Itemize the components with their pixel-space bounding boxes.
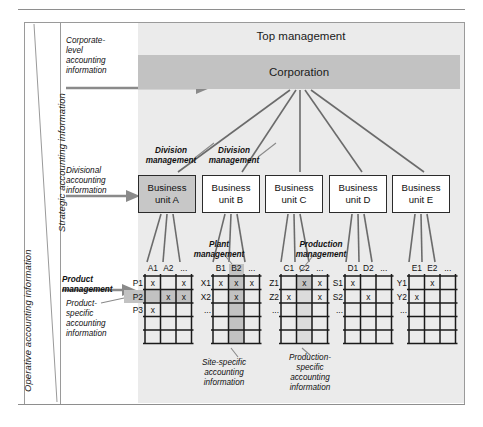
business-unit-label-line1: Business (275, 182, 314, 194)
label-division-management-2: Division management (203, 146, 265, 165)
matrix-cell-mark: x (161, 292, 175, 302)
business-unit-label-line2: unit E (409, 194, 434, 206)
note-product-specific-line4: information (66, 329, 107, 339)
label-division-management-1-line1: Division (140, 146, 202, 156)
label-production-management-line2: management (285, 250, 357, 260)
matrix-cell-mark: x (214, 278, 228, 288)
note-production-specific-line2: specific (272, 363, 348, 373)
matrix-column-header: B2 (229, 263, 245, 273)
note-production-specific: Production- specific accounting informat… (272, 353, 348, 392)
corporation-label: Corporation (269, 66, 329, 78)
matrix-row-label: Y2 (384, 292, 407, 302)
label-production-management: Production management (285, 240, 357, 259)
top-divider-rule (18, 9, 465, 10)
matrix-row-label: ... (384, 305, 407, 315)
matrix-row-label: X1 (186, 278, 211, 288)
business-unit-box-c[interactable]: Businessunit C (265, 175, 323, 213)
matrix-column-header: ... (244, 263, 260, 273)
matrix-cell-mark: x (346, 278, 360, 288)
matrix-column-header: ... (440, 263, 456, 273)
label-division-management-2-line2: management (203, 156, 265, 166)
matrix-highlight-column (229, 264, 245, 344)
label-division-management-2-line1: Division (203, 146, 265, 156)
matrix-row-label: Z1 (254, 278, 279, 288)
business-unit-label-line2: unit C (281, 194, 306, 206)
matrix-cell-mark: x (410, 292, 424, 302)
note-divisional-line1: Divisional (66, 166, 107, 176)
bottom-divider-rule (18, 404, 465, 405)
business-unit-box-b[interactable]: Businessunit B (202, 175, 260, 213)
note-product-specific-line2: specific (66, 309, 107, 319)
business-unit-label-line1: Business (402, 182, 441, 194)
note-corporate-level-line3: accounting (66, 56, 107, 66)
matrix-column-header: ... (312, 263, 328, 273)
label-plant-management-line2: management (186, 250, 252, 260)
matrix-column-header: D2 (361, 263, 377, 273)
axis-label-strategic: Strategic accounting information (56, 93, 67, 232)
matrix-column-header: ... (376, 263, 392, 273)
matrix-row-label: ... (186, 305, 211, 315)
top-management-label: Top management (138, 30, 464, 42)
matrix-row-label: ... (254, 305, 279, 315)
matrix-row-label: P3 (118, 305, 143, 315)
matrix-cell-mark: x (361, 292, 375, 302)
matrix-cell-mark: x (229, 292, 243, 302)
business-unit-box-d[interactable]: Businessunit D (329, 175, 387, 213)
label-division-management-1: Division management (140, 146, 202, 165)
diagram-canvas: Strategic accounting information Operati… (0, 0, 483, 427)
matrix-highlight-cell-trace (297, 290, 313, 344)
matrix-column-header: B1 (213, 263, 229, 273)
note-corporate-level-line4: information (66, 66, 107, 76)
label-plant-management-line1: Plant (186, 240, 252, 250)
business-unit-box-e[interactable]: Businessunit E (392, 175, 450, 213)
note-product-specific: Product- specific accounting information (66, 299, 107, 338)
matrix-row-label: Z2 (254, 292, 279, 302)
note-production-specific-line3: accounting (272, 373, 348, 383)
axis-label-operative: Operative accounting information (22, 249, 33, 392)
business-unit-label-line2: unit B (219, 194, 244, 206)
label-division-management-1-line2: management (140, 156, 202, 166)
business-unit-label-line2: unit D (345, 194, 370, 206)
matrix-column-header: A1 (145, 263, 161, 273)
matrix-row-label: Y1 (384, 278, 407, 288)
note-divisional: Divisional accounting information (66, 166, 107, 196)
matrix-cell-mark: x (297, 278, 311, 288)
note-site-specific: Site-specific accounting information (186, 358, 262, 388)
frame-top-border (24, 22, 465, 23)
matrix-row-label: S1 (320, 278, 343, 288)
matrix-column-header: A2 (161, 263, 177, 273)
note-divisional-line3: information (66, 186, 107, 196)
matrix-column-header: C2 (297, 263, 313, 273)
business-unit-label-line1: Business (148, 182, 187, 194)
business-unit-label-line2: unit A (155, 194, 179, 206)
matrix-row-label: P1 (118, 278, 143, 288)
note-corporate-level: Corporate- level accounting information (66, 36, 107, 75)
note-production-specific-line1: Production- (272, 353, 348, 363)
business-unit-box-a[interactable]: Businessunit A (138, 175, 196, 213)
matrix-cell-mark: x (425, 278, 439, 288)
label-product-management-line2: management (62, 285, 113, 295)
matrix-column-header: D1 (345, 263, 361, 273)
matrix-row-label: X2 (186, 292, 211, 302)
matrix-row-label: S2 (320, 292, 343, 302)
note-site-specific-line3: information (186, 378, 262, 388)
corporation-box[interactable]: Corporation (138, 55, 460, 89)
note-divisional-line2: accounting (66, 176, 107, 186)
matrix-row-label: ... (320, 305, 343, 315)
matrix-column-header: ... (176, 263, 192, 273)
matrix-cell-mark: x (282, 292, 296, 302)
matrix-cell-mark: x (229, 278, 243, 288)
label-product-management-line1: Product (62, 275, 113, 285)
business-unit-label-line1: Business (212, 182, 251, 194)
matrix-row-label: P2 (118, 292, 143, 302)
matrix-column-header: C1 (281, 263, 297, 273)
note-site-specific-line2: accounting (186, 368, 262, 378)
label-production-management-line1: Production (285, 240, 357, 250)
note-production-specific-line4: information (272, 383, 348, 393)
label-plant-management: Plant management (186, 240, 252, 259)
matrix-cell-mark: x (146, 305, 160, 315)
business-unit-label-line1: Business (339, 182, 378, 194)
note-corporate-level-line2: level (66, 46, 107, 56)
matrix-column-header: E1 (409, 263, 425, 273)
note-product-specific-line1: Product- (66, 299, 107, 309)
